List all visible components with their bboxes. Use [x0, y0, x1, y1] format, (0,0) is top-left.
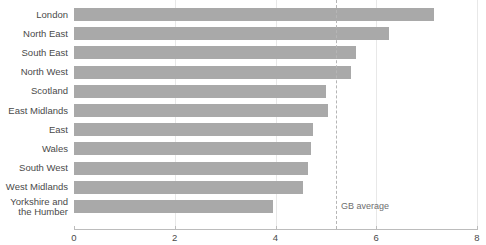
bar-rows [74, 0, 477, 229]
x-tick [376, 226, 377, 230]
bar-row [74, 8, 477, 21]
bar-row [74, 66, 477, 79]
bar-row [74, 123, 477, 136]
bar-row [74, 142, 477, 155]
x-tick [477, 226, 478, 230]
bar [74, 85, 326, 98]
bar-row [74, 85, 477, 98]
category-label: Wales [0, 144, 68, 154]
bar-row [74, 200, 477, 213]
bar [74, 66, 351, 79]
category-label: North West [0, 67, 68, 77]
category-label: North East [0, 29, 68, 39]
bar [74, 200, 273, 213]
x-tick-label: 2 [172, 232, 177, 243]
bar-row [74, 46, 477, 59]
bar-row [74, 181, 477, 194]
bar-row [74, 162, 477, 175]
gridline-8 [477, 0, 478, 229]
gb-average-label: GB average [341, 201, 389, 211]
category-label: East Midlands [0, 106, 68, 116]
category-label: West Midlands [0, 182, 68, 192]
category-label: South West [0, 163, 68, 173]
bar [74, 181, 303, 194]
category-label: South East [0, 48, 68, 58]
x-tick [175, 226, 176, 230]
bar [74, 27, 389, 40]
bar [74, 46, 356, 59]
category-label: Yorkshire and the Humber [0, 197, 68, 217]
plot-area: GB average [74, 0, 477, 229]
x-tick [74, 226, 75, 230]
x-tick-label: 4 [273, 232, 278, 243]
x-tick [276, 226, 277, 230]
bar [74, 123, 313, 136]
category-label: East [0, 125, 68, 135]
bar-row [74, 27, 477, 40]
bar [74, 142, 311, 155]
gb-average-line [336, 0, 337, 229]
category-label: London [0, 10, 68, 20]
x-tick-label: 8 [474, 232, 479, 243]
bar-chart: LondonNorth EastSouth EastNorth WestScot… [0, 0, 486, 245]
category-label: Scotland [0, 86, 68, 96]
bar-row [74, 104, 477, 117]
bar [74, 104, 328, 117]
x-tick-label: 0 [71, 232, 76, 243]
category-axis-labels: LondonNorth EastSouth EastNorth WestScot… [0, 0, 68, 229]
bar [74, 162, 308, 175]
bar [74, 8, 434, 21]
x-tick-label: 6 [374, 232, 379, 243]
